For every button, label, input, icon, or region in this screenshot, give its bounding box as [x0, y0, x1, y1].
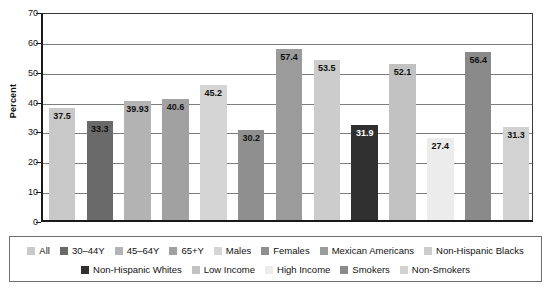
bar[interactable]: 45.2: [200, 85, 226, 220]
legend-item[interactable]: Smokers: [340, 264, 389, 275]
legend-swatch-icon: [214, 247, 222, 255]
bar[interactable]: 56.4: [465, 52, 491, 220]
y-tick-mark: [36, 43, 41, 44]
bar[interactable]: 53.5: [314, 60, 340, 220]
legend-item-label: Non-Smokers: [412, 264, 470, 275]
y-tick-mark: [36, 162, 41, 163]
legend-swatch-icon: [320, 247, 328, 255]
legend-item-label: Low Income: [204, 264, 255, 275]
bar[interactable]: 31.9: [351, 125, 377, 220]
bar-value-label: 52.1: [392, 66, 414, 78]
legend-item-label: Non-Hispanic Blacks: [436, 245, 524, 256]
legend-swatch-icon: [81, 266, 89, 274]
legend-item-label: Males: [226, 245, 251, 256]
y-tick-mark: [36, 132, 41, 133]
bar-series: 37.533.339.9340.645.230.257.453.531.952.…: [43, 14, 532, 220]
y-tick-mark: [36, 192, 41, 193]
y-axis-tick-labels: 010203040506070: [0, 0, 40, 232]
bar-value-label: 30.2: [240, 132, 262, 144]
legend-item[interactable]: All: [27, 245, 50, 256]
legend-item[interactable]: Mexican Americans: [320, 245, 414, 256]
legend-swatch-icon: [27, 247, 35, 255]
bar-value-label: 57.4: [278, 51, 300, 63]
legend-item[interactable]: Males: [214, 245, 251, 256]
legend-swatch-icon: [424, 247, 432, 255]
y-tick-mark: [36, 103, 41, 104]
legend-item[interactable]: 65+Y: [169, 245, 203, 256]
legend-swatch-icon: [192, 266, 200, 274]
bar-value-label: 53.5: [316, 62, 338, 74]
bar-value-label: 33.3: [89, 123, 111, 135]
legend-item-label: 45–64Y: [127, 245, 160, 256]
bar[interactable]: 27.4: [427, 138, 453, 220]
legend-swatch-icon: [169, 247, 177, 255]
legend-item[interactable]: Non-Smokers: [400, 264, 470, 275]
bar[interactable]: 33.3: [87, 121, 113, 220]
bar-value-label: 31.3: [505, 129, 527, 141]
bar[interactable]: 31.3: [503, 127, 529, 220]
legend-item[interactable]: Low Income: [192, 264, 255, 275]
bar-value-label: 40.6: [165, 101, 187, 113]
legend-swatch-icon: [60, 247, 68, 255]
y-tick-mark: [36, 73, 41, 74]
bar[interactable]: 37.5: [49, 108, 75, 220]
legend-swatch-icon: [261, 247, 269, 255]
legend-item-label: Non-Hispanic Whites: [93, 264, 182, 275]
bar-chart: Percent 010203040506070 37.533.339.9340.…: [0, 0, 551, 232]
legend-item-label: 65+Y: [181, 245, 203, 256]
legend-swatch-icon: [400, 266, 408, 274]
chart-legend: All30–44Y45–64Y65+YMalesFemalesMexican A…: [9, 236, 542, 282]
legend-item-label: High Income: [277, 264, 330, 275]
legend-item[interactable]: Non-Hispanic Whites: [81, 264, 182, 275]
bar-value-label: 37.5: [51, 110, 73, 122]
y-tick-mark: [36, 13, 41, 14]
y-tick-mark: [36, 222, 41, 223]
legend-item-label: Smokers: [352, 264, 389, 275]
legend-row: All30–44Y45–64Y65+YMalesFemalesMexican A…: [10, 241, 541, 260]
bar-value-label: 27.4: [430, 140, 452, 152]
bar[interactable]: 30.2: [238, 130, 264, 220]
legend-item[interactable]: Females: [261, 245, 309, 256]
legend-item-label: Females: [273, 245, 309, 256]
bar-value-label: 45.2: [203, 87, 225, 99]
legend-item-label: 30–44Y: [72, 245, 105, 256]
plot-area: 37.533.339.9340.645.230.257.453.531.952.…: [41, 13, 533, 222]
legend-item[interactable]: 45–64Y: [115, 245, 160, 256]
legend-item[interactable]: Non-Hispanic Blacks: [424, 245, 524, 256]
bar-value-label: 31.9: [354, 127, 376, 139]
bar[interactable]: 57.4: [276, 49, 302, 220]
bar-value-label: 56.4: [467, 54, 489, 66]
bar[interactable]: 52.1: [389, 64, 415, 220]
chart-root: Percent 010203040506070 37.533.339.9340.…: [0, 0, 551, 290]
bar[interactable]: 39.93: [124, 101, 150, 220]
legend-item-label: All: [39, 245, 50, 256]
legend-item-label: Mexican Americans: [332, 245, 414, 256]
legend-item[interactable]: High Income: [265, 264, 330, 275]
legend-swatch-icon: [340, 266, 348, 274]
bar-value-label: 39.93: [124, 103, 151, 115]
legend-swatch-icon: [115, 247, 123, 255]
legend-item[interactable]: 30–44Y: [60, 245, 105, 256]
legend-swatch-icon: [265, 266, 273, 274]
legend-row: Non-Hispanic WhitesLow IncomeHigh Income…: [10, 260, 541, 279]
bar[interactable]: 40.6: [162, 99, 188, 220]
